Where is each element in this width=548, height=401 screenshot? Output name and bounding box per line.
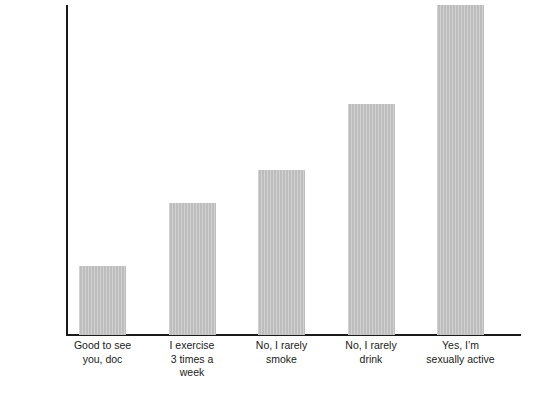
bar [169, 203, 216, 335]
bar-slot [437, 5, 484, 335]
bar-slot [348, 5, 395, 335]
bar [258, 170, 305, 335]
x-axis-labels: Good to see you, docI exercise 3 times a… [68, 339, 521, 397]
plot-area [68, 5, 521, 335]
x-axis-label: Yes, I’m sexually active [406, 339, 516, 366]
bar-slot [169, 5, 216, 335]
bar [79, 266, 126, 335]
bar-slot [79, 5, 126, 335]
y-axis-title: HOW BIG OF A LIE IT IS [0, 0, 60, 330]
bar-slot [258, 5, 305, 335]
bar [348, 104, 395, 335]
bar [437, 5, 484, 335]
bar-chart: HOW BIG OF A LIE IT IS Good to see you, … [0, 0, 548, 401]
